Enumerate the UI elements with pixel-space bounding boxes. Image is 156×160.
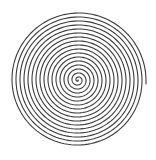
spiral-diagram <box>0 0 156 160</box>
spiral-line <box>12 13 146 145</box>
